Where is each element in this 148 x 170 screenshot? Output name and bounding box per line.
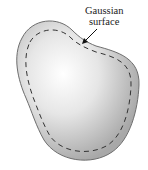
conductor-body: [17, 21, 139, 160]
gaussian-surface-diagram: [0, 0, 148, 170]
label-line-2: surface: [85, 16, 124, 27]
label-line-1: Gaussian: [85, 5, 124, 16]
gaussian-surface-label: Gaussian surface: [85, 5, 124, 27]
